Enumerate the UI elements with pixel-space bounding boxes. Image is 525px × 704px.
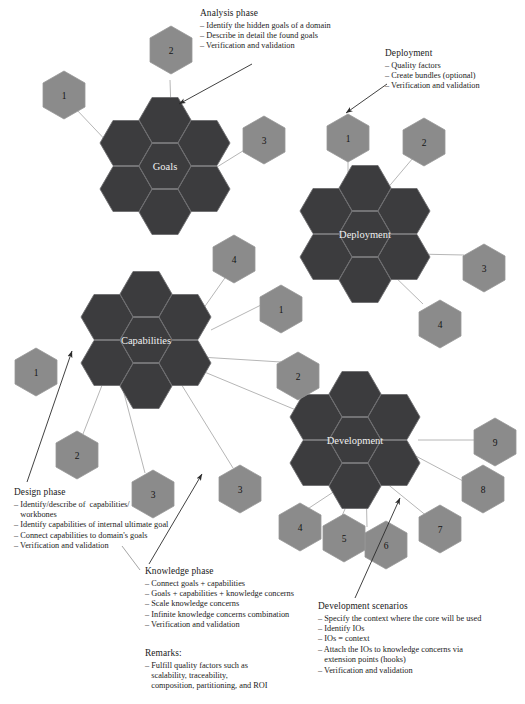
annotation-item: – Attach the IOs to knowledge concerns v… xyxy=(318,645,481,655)
annotation-development-scenarios-list: – Specify the context where the core wil… xyxy=(318,614,481,676)
link-cap-1r xyxy=(211,305,261,330)
annotation-item: workbones xyxy=(14,510,168,520)
annotation-deployment-phase-list: – Quality factors – Create bundles (opti… xyxy=(385,61,480,92)
hex-node-cap-4[interactable]: 4 xyxy=(213,235,255,283)
hex-node-goals-3-label: 3 xyxy=(262,136,267,146)
annotation-analysis-phase-list: – Identify the hidden goals of a domain … xyxy=(200,21,331,52)
hex-node-dev-4-label: 4 xyxy=(298,523,303,533)
link-cap-3b xyxy=(178,379,233,468)
annotation-item: – Identify/describe of capabilities/ xyxy=(14,500,168,510)
hex-node-dev-9-label: 9 xyxy=(493,438,498,448)
annotation-remarks-heading: Remarks: xyxy=(145,648,268,658)
annotation-item: – Identify capabilities of internal ulti… xyxy=(14,520,168,530)
hex-node-dev-5[interactable]: 5 xyxy=(323,514,365,562)
annotation-item: – Specify the context where the core wil… xyxy=(318,614,481,624)
annotation-item: – Fulfill quality factors such as xyxy=(145,661,268,671)
hex-node-dev-7[interactable]: 7 xyxy=(419,505,461,553)
annotation-item: – Verification and validation xyxy=(385,81,480,91)
annotation-item: – Goals + capabilities + knowledge conce… xyxy=(145,589,294,599)
hex-node-deploy-4-label: 4 xyxy=(438,320,443,330)
hex-node-dev-9[interactable]: 9 xyxy=(474,418,516,466)
hex-node-cap-1-right-label: 1 xyxy=(279,305,284,315)
hex-node-cap-1-left[interactable]: 1 xyxy=(15,348,57,396)
annotation-deployment-phase-heading: Deployment xyxy=(385,48,480,58)
hex-node-cap-3-b-label: 3 xyxy=(238,485,243,495)
annotation-design-phase-list: – Identify/describe of capabilities/ wor… xyxy=(14,500,168,552)
annotation-item: – Verification and validation xyxy=(14,541,168,551)
annotation-item: – Identify the hidden goals of a domain xyxy=(200,21,331,31)
annotation-item: – Identify IOs xyxy=(318,624,481,634)
hex-node-cap-4-label: 4 xyxy=(232,255,237,265)
hex-node-goals-1-label: 1 xyxy=(62,91,67,101)
annotation-item: composition, partitioning, and ROI xyxy=(145,681,268,691)
annotation-item: scalability, traceability, xyxy=(145,671,268,681)
annotation-knowledge-phase-list: – Connect goals + capabilities – Goals +… xyxy=(145,579,294,631)
annotation-design-phase: Design phase – Identify/describe of capa… xyxy=(14,487,168,552)
annotation-item: – Create bundles (optional) xyxy=(385,71,480,81)
hex-node-cap-2-right-label: 2 xyxy=(296,372,301,382)
hex-node-dev-8-label: 8 xyxy=(481,485,486,495)
hex-node-cap-1-left-label: 1 xyxy=(34,368,39,378)
hex-node-deploy-2[interactable]: 2 xyxy=(403,118,445,166)
hex-node-deploy-3-label: 3 xyxy=(482,264,487,274)
hex-node-dev-8[interactable]: 8 xyxy=(462,465,504,513)
annotation-design-phase-heading: Design phase xyxy=(14,487,168,497)
hex-node-dev-6-label: 6 xyxy=(384,541,389,551)
hex-node-deploy-1[interactable]: 1 xyxy=(327,114,369,162)
hex-node-goals-2-label: 2 xyxy=(169,46,174,56)
annotation-item: – Describe in detail the found goals xyxy=(200,31,331,41)
annotation-development-scenarios: Development scenarios – Specify the cont… xyxy=(318,601,481,676)
cluster-development-label: Development xyxy=(327,435,384,446)
annotation-remarks-list: – Fulfill quality factors such as scalab… xyxy=(145,661,268,692)
hex-node-goals-2[interactable]: 2 xyxy=(150,26,192,74)
annotation-item: – Scale knowledge concerns xyxy=(145,599,294,609)
annotation-item: – Verification and validation xyxy=(200,41,331,51)
annotation-item: – Infinite knowledge concerns combinatio… xyxy=(145,610,294,620)
hex-node-cap-2-left-label: 2 xyxy=(75,451,80,461)
hex-node-deploy-1-label: 1 xyxy=(346,134,351,144)
cluster-capabilities-label: Capabilities xyxy=(121,335,171,346)
annotation-deployment-phase: Deployment – Quality factors – Create bu… xyxy=(385,48,480,92)
cluster-deployment-label: Deployment xyxy=(339,229,391,240)
annotation-analysis-phase-heading: Analysis phase xyxy=(200,8,331,18)
cluster-goals-label: Goals xyxy=(153,161,178,172)
hex-node-goals-3[interactable]: 3 xyxy=(243,116,285,164)
hex-node-cap-2-left[interactable]: 2 xyxy=(56,431,98,479)
annotation-item: – Verification and validation xyxy=(318,666,481,676)
hex-node-dev-7-label: 7 xyxy=(438,525,443,535)
annotation-item: – Connect capabilities to domain's goals xyxy=(14,531,168,541)
annotation-remarks: Remarks: – Fulfill quality factors such … xyxy=(145,648,268,692)
hex-node-dev-5-label: 5 xyxy=(342,534,347,544)
annotation-analysis-phase: Analysis phase – Identify the hidden goa… xyxy=(200,8,331,52)
hex-node-deploy-3[interactable]: 3 xyxy=(463,244,505,292)
annotation-development-scenarios-heading: Development scenarios xyxy=(318,601,481,611)
annotation-item: – Verification and validation xyxy=(145,620,294,630)
annotation-item: extension points (hooks) xyxy=(318,655,481,665)
arrow-analysis-phase xyxy=(179,64,252,104)
hex-node-dev-4[interactable]: 4 xyxy=(279,503,321,551)
hex-node-cap-2-right[interactable]: 2 xyxy=(277,352,319,400)
link-cap-2r xyxy=(200,357,281,362)
link-dev-8 xyxy=(412,454,463,481)
annotation-item: – Quality factors xyxy=(385,61,480,71)
annotation-knowledge-phase: Knowledge phase – Connect goals + capabi… xyxy=(145,566,294,631)
annotation-knowledge-phase-heading: Knowledge phase xyxy=(145,566,294,576)
hex-node-cap-3-b[interactable]: 3 xyxy=(219,465,261,513)
arrow-deployment-phase xyxy=(346,84,387,113)
hex-node-deploy-4[interactable]: 4 xyxy=(419,300,461,348)
hex-node-deploy-2-label: 2 xyxy=(422,138,427,148)
annotation-item: – IOs = context xyxy=(318,634,481,644)
annotation-item: – Connect goals + capabilities xyxy=(145,579,294,589)
hex-node-cap-1-right[interactable]: 1 xyxy=(260,285,302,333)
